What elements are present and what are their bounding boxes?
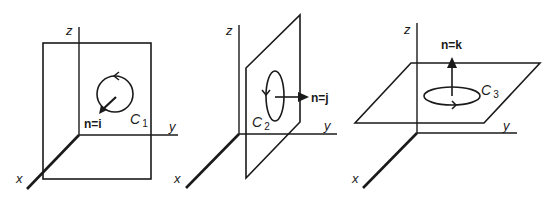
normal-label: n=k	[441, 38, 462, 52]
x-axis-label: x	[351, 171, 359, 186]
panel-3: z y x n=k C3	[351, 22, 540, 188]
curve-c2	[266, 71, 284, 121]
y-axis-label: y	[168, 119, 177, 134]
curve-label: C2	[252, 114, 270, 132]
normal-label: n=i	[84, 117, 102, 131]
z-axis-label: z	[65, 23, 73, 38]
x-axis	[363, 133, 417, 188]
y-axis-label: y	[502, 118, 511, 133]
panel-2: z y x n=j C2	[173, 15, 337, 188]
x-axis-label: x	[173, 171, 181, 186]
z-axis-label: z	[403, 22, 411, 37]
curve-label: C1	[130, 111, 148, 129]
arrowhead-icon	[298, 92, 309, 102]
panel-1: z y x n=i C1	[15, 23, 178, 189]
x-axis	[27, 135, 79, 189]
coordinate-planes-figure: z y x n=i C1 z y x n=j C2	[0, 0, 557, 199]
z-axis-label: z	[225, 23, 233, 38]
x-axis-label: x	[15, 171, 23, 186]
x-axis	[186, 134, 239, 188]
normal-label: n=j	[311, 91, 329, 105]
y-axis-label: y	[323, 118, 332, 133]
curve-label: C3	[481, 82, 499, 100]
xy-plane	[355, 63, 540, 123]
